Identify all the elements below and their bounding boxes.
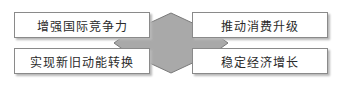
box-label: 实现新旧动能转换 (30, 53, 134, 70)
box-top-left: 增强国际竞争力 (14, 12, 150, 38)
box-bottom-left: 实现新旧动能转换 (14, 48, 150, 74)
box-top-right: 推动消费升级 (192, 12, 328, 38)
box-label: 稳定经济增长 (221, 53, 299, 70)
box-bottom-right: 稳定经济增长 (192, 48, 328, 74)
box-label: 增强国际竞争力 (37, 17, 128, 34)
box-label: 推动消费升级 (221, 17, 299, 34)
